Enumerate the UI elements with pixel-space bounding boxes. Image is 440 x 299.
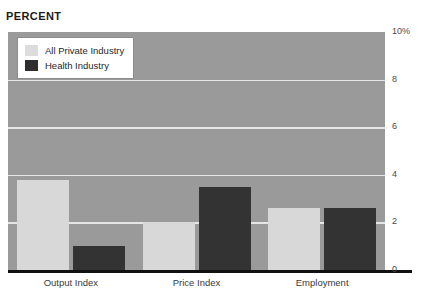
y-axis-tick-label: 8: [392, 74, 397, 84]
gridline: [8, 175, 385, 177]
legend-swatch-icon: [25, 45, 38, 56]
chart-container: PERCENT 10%86420 Output IndexPrice Index…: [0, 0, 440, 299]
bar: [268, 208, 320, 270]
x-axis-category-label: Output Index: [8, 277, 134, 288]
bar: [73, 246, 125, 270]
y-axis-tick-label: 0: [392, 264, 397, 274]
y-axis-tick-label: 4: [392, 169, 397, 179]
legend-item-label: All Private Industry: [45, 45, 124, 56]
legend-item-health-industry: Health Industry: [25, 58, 124, 73]
chart-legend: All Private Industry Health Industry: [17, 37, 134, 79]
legend-item-all-private-industry: All Private Industry: [25, 43, 124, 58]
gridline: [8, 127, 385, 129]
y-axis-tick-label: 2: [392, 216, 397, 226]
bar: [143, 222, 195, 270]
y-axis-tick-label: 6: [392, 121, 397, 131]
legend-swatch-icon: [25, 60, 38, 71]
x-axis-line: [8, 270, 412, 273]
bar: [199, 187, 251, 270]
chart-title: PERCENT: [6, 10, 61, 22]
legend-item-label: Health Industry: [45, 60, 109, 71]
x-axis-category-label: Employment: [259, 277, 385, 288]
x-axis-category-label: Price Index: [134, 277, 260, 288]
y-axis-tick-label: 10%: [392, 26, 410, 36]
bar: [17, 180, 69, 270]
bar: [324, 208, 376, 270]
gridline: [8, 80, 385, 82]
